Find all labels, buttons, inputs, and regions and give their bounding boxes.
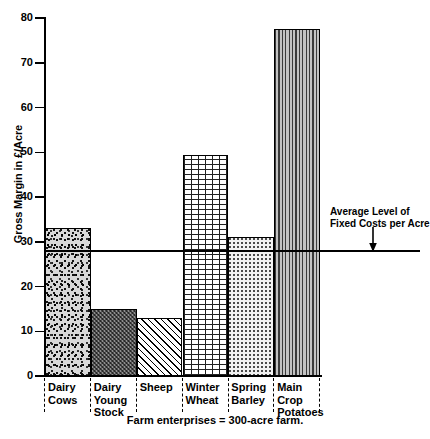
y-axis-tick-label: 0 [0,370,33,381]
y-axis-tick-label: 50 [0,146,33,157]
bar [274,29,320,376]
y-axis-tick [35,152,45,154]
y-axis-tick [35,196,45,198]
bars-container [45,18,320,376]
x-axis-caption: Farm enterprises = 300-acre farm. [0,414,430,426]
y-axis-tick-label-wrap: 50 [0,146,33,157]
bar [183,155,229,377]
x-axis-separator [136,378,137,412]
y-axis-tick-label: 40 [0,191,33,202]
bar [228,237,274,376]
y-axis-tick-label-wrap: 20 [0,281,33,292]
y-axis-tick-label-wrap: 30 [0,236,33,247]
x-axis-separator [228,378,229,412]
x-axis-separator [44,378,45,412]
y-axis-tick-label: 80 [0,12,33,23]
x-axis-category-label: Dairy Cows [48,381,90,406]
y-axis-tick [35,241,45,243]
y-axis-tick-label-wrap: 10 [0,325,33,336]
y-axis-tick-label: 30 [0,236,33,247]
y-axis-tick-label-wrap: 80 [0,12,33,23]
y-axis-tick-label-wrap: 40 [0,191,33,202]
y-axis-tick-label-wrap: 60 [0,102,33,113]
bar [137,318,183,376]
x-axis-category-label: Spring Barley [231,381,273,406]
x-axis-category-label: Main Crop Potatoes [277,381,319,419]
x-axis-category-label: Dairy Young Stock [94,381,136,419]
y-axis-tick [35,62,45,64]
x-axis-separator [90,378,91,412]
x-axis-separator [273,378,274,412]
gross-margin-bar-chart: Gross Margin in £/Acre 01020304050607080… [0,0,430,439]
y-axis-tick [35,331,45,333]
y-axis-tick-label: 20 [0,281,33,292]
y-axis-tick-label: 60 [0,102,33,113]
average-fixed-costs-line [44,250,420,252]
x-axis-separator [182,378,183,412]
y-axis-tick [35,286,45,288]
average-fixed-costs-label-line1: Average Level of [330,206,410,218]
y-axis-tick [35,17,45,19]
x-axis-category-label: Winter Wheat [186,381,228,406]
y-axis-tick-label-wrap: 70 [0,57,33,68]
bar [91,309,137,376]
y-axis-tick [35,107,45,109]
y-axis-tick-label: 70 [0,57,33,68]
y-axis-tick-label-wrap: 0 [0,370,33,381]
y-axis-tick-label: 10 [0,325,33,336]
y-axis-tick [35,375,45,377]
down-arrow-icon [366,227,380,253]
x-axis-category-label: Sheep [140,381,182,394]
